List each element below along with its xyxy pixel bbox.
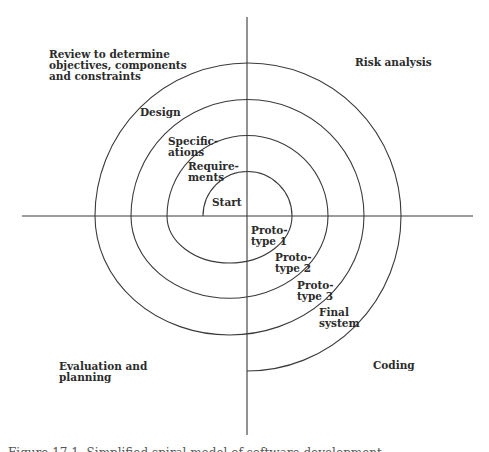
spiral-label-specifications: Specific- ations: [168, 136, 218, 158]
quadrant-label-coding: Coding: [373, 360, 415, 371]
spiral-label-prototype-3: Proto- type 3: [297, 280, 334, 302]
quadrant-label-risk-analysis: Risk analysis: [355, 57, 432, 68]
quadrant-label-evaluation: Evaluation and planning: [59, 361, 147, 383]
figure-caption: Figure 17.1 Simplified spiral model of s…: [8, 446, 382, 452]
quadrant-label-review: Review to determine objectives, componen…: [49, 49, 187, 82]
spiral-label-prototype-2: Proto- type 2: [275, 252, 312, 274]
spiral-label-prototype-1: Proto- type 1: [251, 225, 288, 247]
spiral-label-design: Design: [140, 107, 181, 118]
spiral-label-requirements: Require- ments: [188, 161, 239, 183]
spiral-label-final-system: Final system: [319, 307, 360, 329]
spiral-label-start: Start: [212, 197, 242, 208]
